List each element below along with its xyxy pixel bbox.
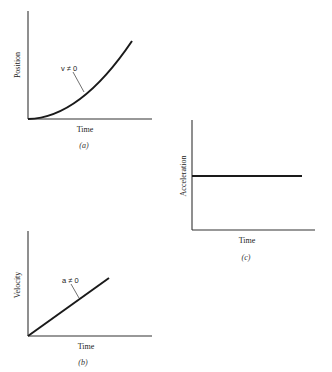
panel-c-caption: (c) — [242, 253, 251, 262]
panel-b-caption: (b) — [78, 358, 88, 367]
panel-b-x-label: Time — [78, 342, 95, 351]
panel-c-y-label: Acceleration — [179, 156, 188, 197]
panel-a-caption: (a) — [79, 141, 89, 150]
panel-a-y-label: Position — [13, 52, 22, 78]
kinematics-figure: v ≠ 0 Position Time (a) Acceleration Tim… — [0, 0, 332, 372]
panel-b-annotation: a ≠ 0 — [62, 276, 79, 285]
panel-a-position-curve — [28, 41, 132, 119]
panel-a-annotation: v ≠ 0 — [61, 64, 77, 73]
panel-a-annotation-leader — [73, 72, 84, 92]
panel-a-x-label: Time — [77, 125, 94, 134]
panel-a-position-graph: v ≠ 0 Position Time (a) — [13, 11, 152, 150]
panel-c-acceleration-graph: Acceleration Time (c) — [179, 120, 315, 262]
panel-c-x-label: Time — [239, 236, 256, 245]
panel-b-annotation-leader — [71, 284, 79, 298]
panel-b-y-label: Velocity — [13, 272, 22, 299]
panel-b-velocity-line — [28, 278, 109, 336]
panel-b-velocity-graph: a ≠ 0 Velocity Time (b) — [13, 231, 152, 367]
